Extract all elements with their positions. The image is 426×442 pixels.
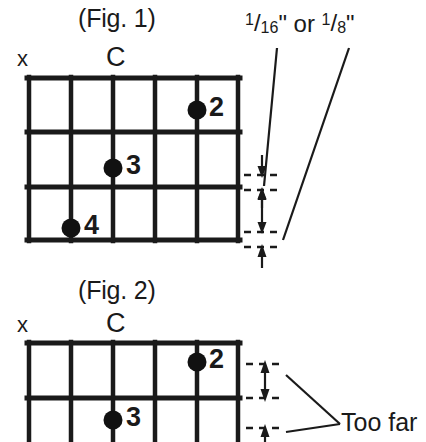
figure2-finger-label-3: 3 xyxy=(126,404,141,431)
illustration-canvas: (Fig. 1) x C xyxy=(0,0,426,442)
figure2-finger-label-2: 2 xyxy=(209,346,224,373)
figure2-dot-3 xyxy=(104,411,123,430)
figure2-dot-2 xyxy=(188,353,207,372)
figure2-gap-arrow xyxy=(261,360,270,402)
figure2-gap-arrow-lower xyxy=(261,424,270,442)
figure2-annotation-too-far: Too far xyxy=(341,410,417,435)
figure2-leader-lines xyxy=(286,375,340,432)
figure2-graphics xyxy=(0,0,426,442)
